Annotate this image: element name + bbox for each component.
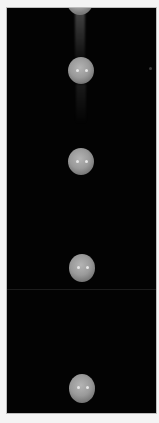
ball-highlight [76,160,79,163]
ball-highlight [77,386,80,389]
ball-exposure-4 [69,254,95,282]
ball-exposure-2 [68,57,94,84]
photo-frame [7,8,156,413]
ball-exposure-3 [68,148,94,175]
motion-trail-1 [75,12,85,58]
dust-speck [149,67,152,70]
ball-highlight [77,266,80,269]
film-seam [7,289,156,290]
ball-highlight [86,386,89,389]
ball-highlight [85,69,88,72]
ball-highlight [76,69,79,72]
ball-highlight [85,160,88,163]
ball-highlight [86,266,89,269]
motion-trail-2 [76,84,86,124]
ball-exposure-5 [69,374,95,403]
